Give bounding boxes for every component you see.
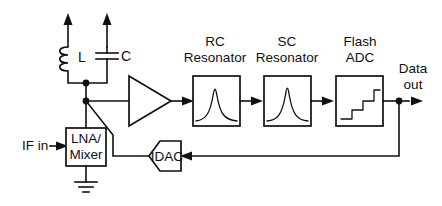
capacitor-arrow-icon: [103, 13, 112, 25]
inductor-label: L: [78, 49, 86, 65]
sc-resonator-box[interactable]: [264, 76, 311, 126]
rc-resonator-caption-line2: Resonator: [184, 50, 247, 65]
idac-label: IDAC: [151, 149, 184, 164]
flash-adc-caption-line2: ADC: [346, 50, 375, 65]
amplifier-triangle[interactable]: [129, 76, 171, 126]
inductor-arrow-icon: [64, 13, 73, 25]
capacitor-label: C: [121, 48, 131, 64]
data-out-arrow-icon: [411, 97, 423, 106]
lna-mixer-label-line2: Mixer: [70, 147, 104, 162]
block-diagram-figure: L C IF in LNA/ Mixer: [0, 0, 442, 206]
sc-resonator-caption-line2: Resonator: [256, 50, 319, 65]
inductor-branch: [60, 13, 86, 83]
if-input-label: IF in: [22, 138, 48, 153]
rc-resonator-caption-line1: RC: [205, 34, 225, 49]
capacitor-branch: [86, 13, 118, 83]
ground-symbol-icon: [75, 166, 97, 192]
lna-mixer-label-line1: LNA/: [71, 131, 101, 146]
capacitor-lead-bottom: [86, 59, 107, 83]
rc-resonator-box[interactable]: [193, 76, 240, 126]
sc-output-arrow-icon: [322, 97, 334, 106]
inductor-coil-icon: [60, 47, 68, 71]
data-out-label-line2: out: [404, 77, 423, 92]
flash-adc-caption-line1: Flash: [343, 34, 376, 49]
rc-output-arrow-icon: [251, 97, 263, 106]
diagram-canvas: L C IF in LNA/ Mixer: [0, 0, 442, 206]
data-out-label-line1: Data: [399, 61, 428, 76]
sc-resonator-caption-line1: SC: [278, 34, 297, 49]
